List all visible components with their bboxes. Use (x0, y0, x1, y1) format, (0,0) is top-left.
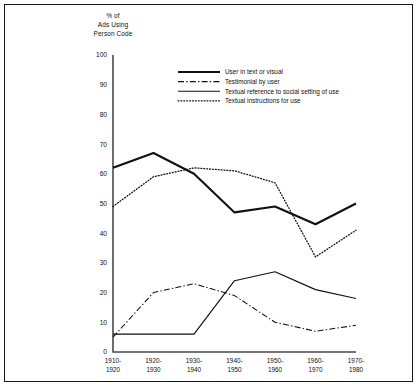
x-axis-tick-label: 1910- (105, 357, 121, 364)
x-axis-tick-label: 1950 (227, 366, 242, 373)
x-axis-tick-label: 1940 (187, 366, 202, 373)
x-axis-tick-label: 1930 (146, 366, 161, 373)
y-axis-title-line: Ads Using (98, 21, 129, 29)
series-line-testimonial-by-user (113, 284, 356, 337)
x-axis-tick-label: 1960- (307, 357, 323, 364)
y-axis-tick-label: 100 (96, 51, 107, 58)
y-axis-tick-label: 60 (100, 170, 108, 177)
legend-label: Testimonial by user (225, 78, 281, 86)
legend-label: User in text or visual (225, 68, 283, 75)
x-axis-tick-label: 1940- (226, 357, 242, 364)
y-axis-tick-label: 70 (100, 141, 108, 148)
x-axis-tick-label: 1920- (145, 357, 161, 364)
legend-label: Textual reference to social setting of u… (225, 88, 339, 96)
chart-figure: % ofAds UsingPerson Code0102030405060708… (0, 0, 420, 389)
legend-label: Textual instructions for use (225, 97, 301, 104)
x-axis-tick-label: 1950- (267, 357, 283, 364)
x-axis-tick-label: 1930- (186, 357, 202, 364)
x-axis-tick-label: 1980 (349, 366, 364, 373)
y-axis-tick-label: 90 (100, 81, 108, 88)
x-axis-tick-label: 1970- (348, 357, 364, 364)
x-axis-tick-label: 1920 (106, 366, 121, 373)
y-axis-tick-label: 30 (100, 259, 108, 266)
y-axis-tick-label: 10 (100, 319, 108, 326)
y-axis-tick-label: 0 (103, 348, 107, 355)
y-axis-tick-label: 50 (100, 200, 108, 207)
x-axis-tick-label: 1970 (308, 366, 323, 373)
series-line-textual-reference-to-social-setting-of-use (113, 272, 356, 334)
y-axis-title-line: % of (106, 12, 120, 19)
y-axis-tick-label: 80 (100, 111, 108, 118)
line-chart: % ofAds UsingPerson Code0102030405060708… (0, 0, 420, 389)
y-axis-title-line: Person Code (93, 30, 132, 37)
x-axis-tick-label: 1960 (268, 366, 283, 373)
y-axis-tick-label: 20 (100, 289, 108, 296)
y-axis-tick-label: 40 (100, 230, 108, 237)
series-line-user-in-text-or-visual (113, 153, 356, 224)
